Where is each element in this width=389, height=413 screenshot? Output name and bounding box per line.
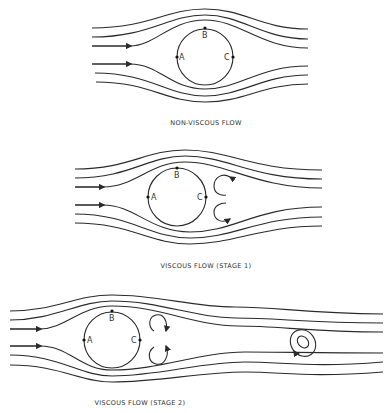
point-a bbox=[82, 338, 85, 341]
caption: NON-VISCOUS FLOW bbox=[170, 119, 242, 127]
point-a bbox=[146, 195, 149, 198]
label-c: C bbox=[197, 193, 203, 202]
panel-viscous-stage-2: A B C VISCOUS FLOW (STAGE 2) bbox=[10, 295, 383, 407]
point-b bbox=[175, 166, 178, 169]
label-b: B bbox=[109, 314, 115, 323]
label-a: A bbox=[151, 193, 157, 202]
vortex-lower-icon bbox=[214, 203, 230, 221]
caption: VISCOUS FLOW (STAGE 2) bbox=[95, 399, 186, 407]
point-b bbox=[110, 309, 113, 312]
point-c bbox=[231, 55, 234, 58]
vortex-upper-icon bbox=[150, 315, 167, 331]
point-b bbox=[203, 26, 206, 29]
label-c: C bbox=[224, 53, 230, 62]
label-b: B bbox=[202, 31, 208, 40]
flow-diagram: A B C NON-VISCOUS FLOW A B C VISCOUS FLO… bbox=[0, 0, 389, 413]
label-a: A bbox=[179, 53, 185, 62]
vortex-upper-icon bbox=[214, 175, 230, 195]
label-c: C bbox=[131, 336, 137, 345]
streamlines bbox=[10, 295, 383, 382]
point-c bbox=[204, 195, 207, 198]
streamlines bbox=[92, 9, 308, 102]
panel-non-viscous: A B C NON-VISCOUS FLOW bbox=[92, 9, 308, 127]
eddy-inner-icon bbox=[295, 334, 311, 350]
label-a: A bbox=[87, 336, 93, 345]
caption: VISCOUS FLOW (STAGE 1) bbox=[161, 262, 252, 270]
vortex-lower-icon bbox=[149, 346, 167, 364]
panel-viscous-stage-1: A B C VISCOUS FLOW (STAGE 1) bbox=[75, 150, 322, 270]
label-b: B bbox=[174, 171, 180, 180]
point-c bbox=[138, 338, 141, 341]
